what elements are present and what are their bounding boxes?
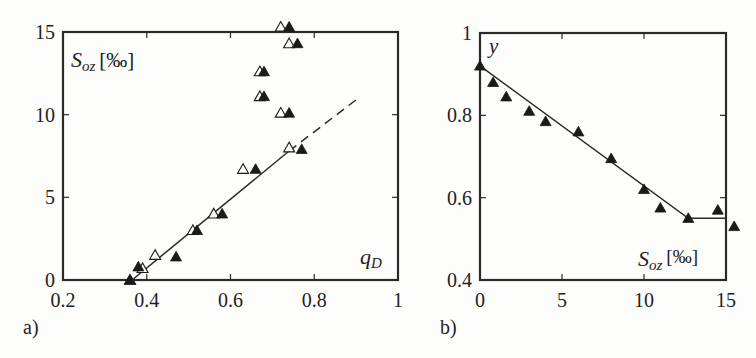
y-tick-label: 0.6 bbox=[447, 187, 472, 209]
data-point-filled bbox=[573, 126, 584, 136]
x-tick-label: 5 bbox=[557, 289, 567, 311]
y-tick-label: 5 bbox=[45, 186, 55, 208]
x-tick-label: 0 bbox=[475, 289, 485, 311]
y-tick-label: 0.4 bbox=[447, 269, 472, 291]
data-point-open bbox=[284, 142, 295, 152]
data-point-filled bbox=[475, 60, 486, 70]
x-tick-label: 0.8 bbox=[302, 289, 327, 311]
data-point-filled bbox=[292, 38, 303, 48]
figure: 0.20.40.60.81051015a)Soz[‰]qD 0510150.40… bbox=[0, 0, 756, 358]
panel-b-plot: 0510150.40.60.81b)ySoz[‰] bbox=[440, 22, 740, 339]
panel-a-plot: 0.20.40.60.81051015a)Soz[‰]qD bbox=[23, 21, 403, 339]
y-tick-label: 0 bbox=[45, 269, 55, 291]
x-tick-label: 0.4 bbox=[134, 289, 159, 311]
x-axis-title: qD bbox=[360, 244, 382, 271]
x-tick-label: 10 bbox=[634, 289, 654, 311]
data-point-filled bbox=[250, 164, 261, 174]
data-point-filled bbox=[296, 144, 307, 154]
y-tick-label: 1 bbox=[462, 22, 472, 44]
x-axis-title: Soz[‰] bbox=[638, 246, 698, 273]
data-point-filled bbox=[655, 202, 666, 212]
x-tick-label: 1 bbox=[393, 289, 403, 311]
data-point-filled bbox=[712, 205, 723, 215]
y-axis-title: Soz[‰] bbox=[71, 47, 134, 74]
data-point-open bbox=[238, 164, 249, 174]
data-point-filled bbox=[524, 106, 535, 116]
data-point-filled bbox=[606, 153, 617, 163]
x-tick-label: 0.6 bbox=[218, 289, 243, 311]
data-point-filled bbox=[284, 108, 295, 118]
panel-label: b) bbox=[440, 316, 457, 339]
data-point-filled bbox=[171, 251, 182, 261]
y-tick-label: 0.8 bbox=[447, 104, 472, 126]
x-tick-label: 15 bbox=[716, 289, 736, 311]
y-axis-title: y bbox=[487, 34, 499, 58]
fit-line-dashed bbox=[289, 100, 356, 151]
data-point-open bbox=[150, 250, 161, 260]
x-tick-label: 0.2 bbox=[51, 289, 76, 311]
data-point-filled bbox=[729, 221, 740, 231]
fit-line bbox=[480, 66, 726, 218]
data-point-filled bbox=[501, 91, 512, 101]
panel-label: a) bbox=[23, 316, 39, 339]
y-tick-label: 15 bbox=[35, 21, 55, 43]
y-tick-label: 10 bbox=[35, 104, 55, 126]
data-point-filled bbox=[284, 22, 295, 32]
